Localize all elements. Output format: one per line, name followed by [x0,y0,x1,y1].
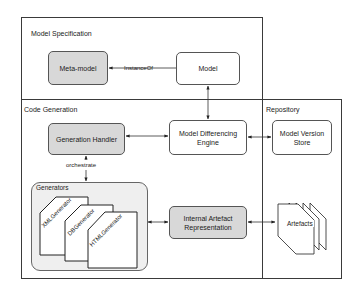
model-differencing-engine-label-line2: Engine [197,138,219,147]
model-version-store-label-line1: Model Version [280,129,324,138]
model-version-store-node[interactable]: Model Version Store [272,120,332,155]
model-version-store-label-line2: Store [294,138,311,147]
instance-of-edge-label: InstanceOf [124,65,153,72]
internal-artefact-representation-label-line2: Representation [184,223,231,232]
model-specification-label: Model Specification [31,30,92,37]
meta-model-label: Meta-model [60,64,97,73]
code-generation-label: Code Generation [24,106,77,113]
generators-title: Generators [36,184,69,191]
model-differencing-engine-label-line1: Model Differencing [179,129,237,138]
internal-artefact-representation-node[interactable]: Internal Artefact Representation [169,206,247,239]
generation-handler-node[interactable]: Generation Handler [48,123,125,155]
repository-label: Repository [266,106,299,113]
model-differencing-engine-node[interactable]: Model Differencing Engine [169,120,247,155]
meta-model-node[interactable]: Meta-model [48,51,108,85]
internal-artefact-representation-label-line1: Internal Artefact [183,214,232,223]
artefacts-label: Artefacts [286,220,314,227]
generators-group[interactable] [31,182,148,271]
model-node[interactable]: Model [176,52,240,85]
orchestrate-edge-label: orchestrate [66,162,96,169]
generation-handler-label: Generation Handler [56,135,117,144]
model-label: Model [198,64,217,73]
